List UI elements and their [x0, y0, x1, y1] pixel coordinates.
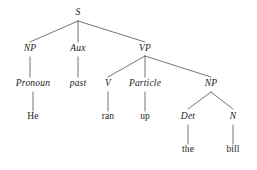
node-vp: VP — [139, 44, 151, 54]
branch-s-vp — [78, 21, 145, 42]
syntax-tree-figure: S NP Aux VP Pronoun past V Particle NP H… — [0, 0, 257, 170]
node-aux: Aux — [70, 44, 85, 54]
terminal-bill: bill — [226, 145, 239, 155]
branch-vp-v — [108, 56, 145, 77]
terminal-the: the — [182, 145, 194, 155]
branch-np-n — [211, 92, 233, 109]
branch-vp-np — [145, 56, 211, 77]
node-np-subject: NP — [24, 44, 37, 54]
branch-np-det — [188, 92, 211, 109]
node-np-object: NP — [205, 79, 218, 89]
terminal-up: up — [140, 112, 150, 122]
node-pronoun: Pronoun — [16, 79, 50, 89]
node-particle: Particle — [129, 79, 161, 89]
node-n: N — [230, 112, 237, 122]
terminal-he: He — [27, 112, 38, 122]
node-s: S — [76, 8, 81, 18]
node-past: past — [70, 79, 87, 89]
node-det: Det — [181, 112, 195, 122]
branch-s-np — [30, 21, 78, 42]
terminal-ran: ran — [102, 112, 114, 122]
node-v: V — [105, 79, 111, 89]
